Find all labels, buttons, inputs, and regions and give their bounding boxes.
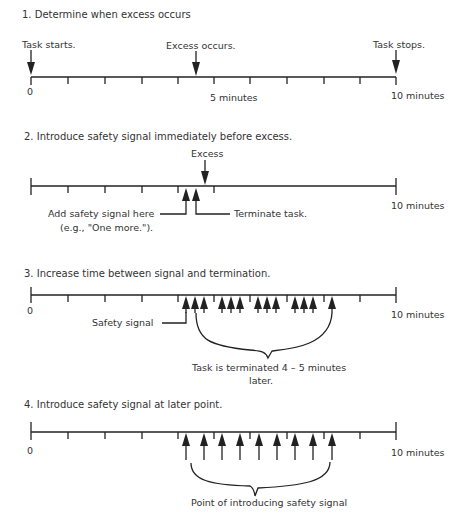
- excess-occurs-label: Excess occurs.: [166, 40, 236, 51]
- up-arrow-icon: [236, 296, 244, 313]
- down-arrow-icon: [392, 50, 400, 74]
- ten-minutes-label: 10 minutes: [391, 447, 445, 458]
- down-arrow-icon: [201, 160, 209, 185]
- up-arrow-icon: [309, 433, 317, 460]
- zero-label: 0: [27, 86, 33, 97]
- signal-arrows: [182, 296, 336, 313]
- ten-minutes-label: 10 minutes: [391, 309, 445, 320]
- terminate-note-line2: later.: [249, 375, 273, 386]
- up-arrow-icon: [263, 296, 271, 313]
- up-arrow-icon: [182, 433, 190, 460]
- safety-signal-label: Safety signal: [92, 317, 154, 328]
- down-arrow-icon: [192, 51, 200, 76]
- up-arrow-icon: [272, 296, 280, 313]
- brace: [196, 313, 332, 358]
- up-arrow-icon: [218, 296, 226, 313]
- up-arrow-icon: [254, 296, 262, 313]
- five-minutes-label: 5 minutes: [210, 92, 258, 103]
- up-arrow-icon: [328, 296, 336, 313]
- tick-marks: [31, 295, 396, 303]
- up-arrow-icon: [273, 433, 281, 460]
- safety-signal-label: Add safety signal here: [48, 208, 154, 219]
- tick-marks: [31, 432, 396, 440]
- safety-signal-leader: [162, 312, 186, 323]
- up-arrow-icon: [309, 296, 317, 313]
- signal-arrows: [182, 433, 336, 460]
- panel-2-heading: 2. Introduce safety signal immediately b…: [24, 131, 292, 142]
- panel-4-heading: 4. Introduce safety signal at later poin…: [24, 399, 222, 410]
- up-arrow-icon: [227, 296, 235, 313]
- panel-4: 4. Introduce safety signal at later poin…: [24, 399, 445, 508]
- task-stops-label: Task stops.: [372, 39, 425, 50]
- ten-minutes-label: 10 minutes: [391, 200, 445, 211]
- safety-signal-example: (e.g., "One more.").: [60, 222, 153, 233]
- up-arrow-icon: [291, 433, 299, 460]
- up-arrow-icon: [328, 433, 336, 460]
- panel-3: 3. Increase time between signal and term…: [24, 268, 445, 386]
- timeline-diagram: 1. Determine when excess occurs 0 5 minu…: [0, 0, 468, 525]
- panel-2: 2. Introduce safety signal immediately b…: [24, 131, 445, 233]
- tick-marks: [31, 77, 396, 85]
- terminate-task-label: Terminate task.: [233, 208, 307, 219]
- excess-label: Excess: [191, 148, 223, 159]
- up-arrow-icon: [200, 433, 208, 460]
- up-arrow-icon: [200, 296, 208, 313]
- zero-label: 0: [27, 305, 33, 316]
- task-starts-label: Task starts.: [21, 39, 76, 50]
- up-arrow-icon: [182, 296, 190, 313]
- panel-1-heading: 1. Determine when excess occurs: [22, 9, 191, 20]
- ten-minutes-label: 10 minutes: [391, 90, 445, 101]
- terminate-note-line1: Task is terminated 4 – 5 minutes: [191, 362, 346, 373]
- up-arrow-icon: [300, 296, 308, 313]
- up-arrow-icon: [191, 296, 199, 313]
- up-arrow-icon: [236, 433, 244, 460]
- point-of-introducing-label: Point of introducing safety signal: [191, 497, 347, 508]
- zero-label: 0: [27, 445, 33, 456]
- up-arrow-icon: [192, 188, 230, 214]
- up-arrow-icon: [160, 188, 190, 214]
- up-arrow-icon: [255, 433, 263, 460]
- brace: [191, 462, 330, 496]
- panel-1: 1. Determine when excess occurs 0 5 minu…: [21, 9, 445, 103]
- up-arrow-icon: [291, 296, 299, 313]
- up-arrow-icon: [218, 433, 226, 460]
- panel-3-heading: 3. Increase time between signal and term…: [24, 268, 271, 279]
- down-arrow-icon: [27, 50, 35, 75]
